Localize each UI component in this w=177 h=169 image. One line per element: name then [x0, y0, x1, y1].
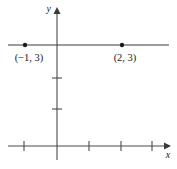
y-axis-label: y	[46, 3, 52, 14]
x-axis-label: x	[165, 149, 171, 160]
figure-canvas: y x (−1, 3) (2, 3)	[0, 0, 177, 169]
y-axis-arrow-icon	[54, 7, 61, 14]
point-label-left: (−1, 3)	[15, 52, 44, 64]
point-label-right: (2, 3)	[114, 52, 137, 64]
data-point-left	[23, 43, 27, 47]
data-point-right	[120, 43, 124, 47]
coordinate-plane-figure: y x (−1, 3) (2, 3)	[0, 0, 177, 169]
